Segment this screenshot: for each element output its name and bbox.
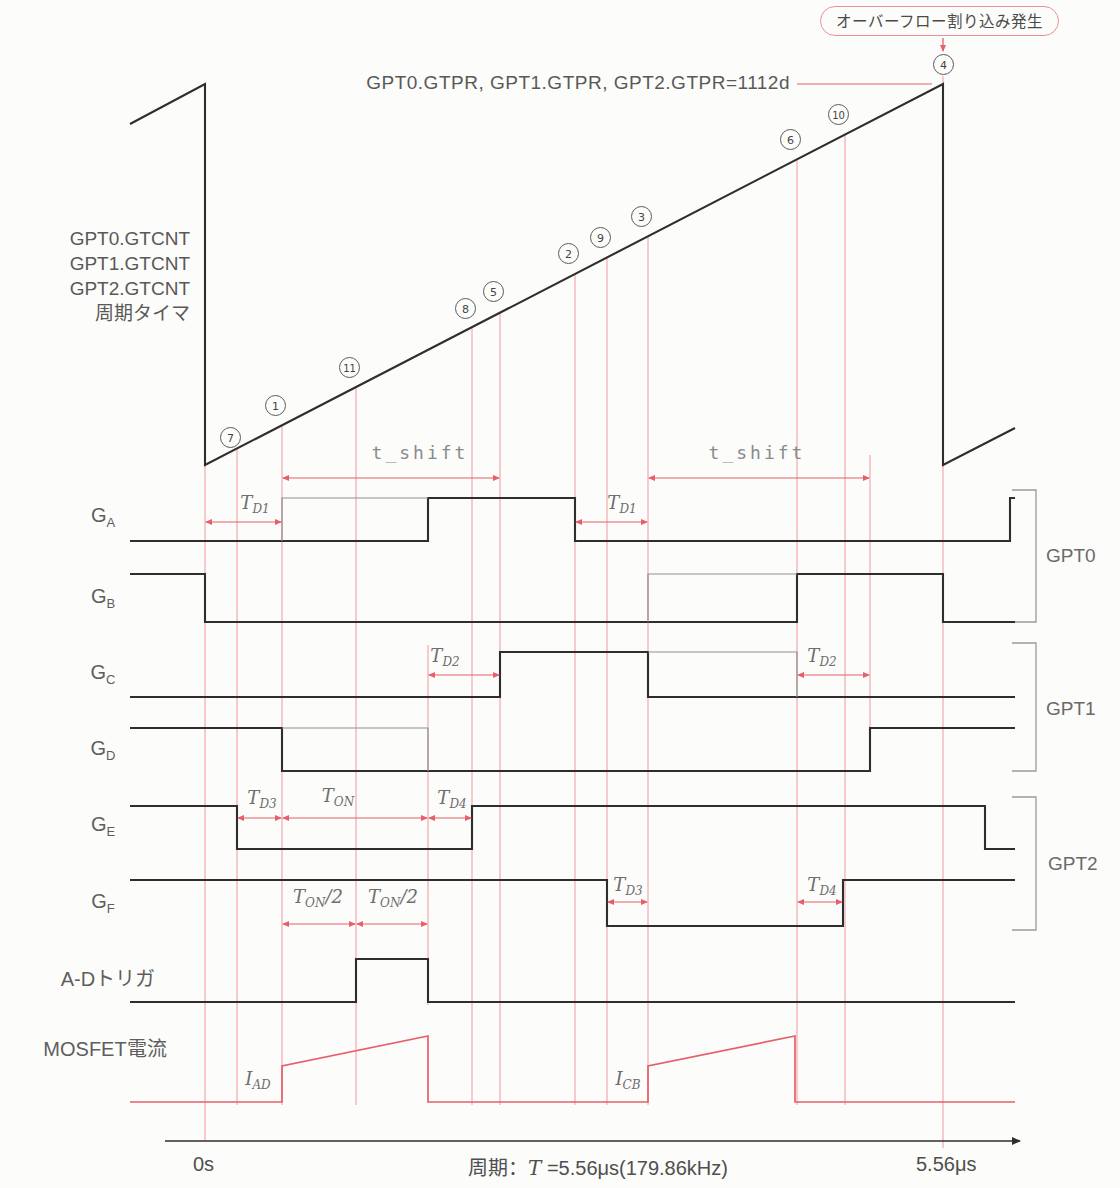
waveform-canvas	[0, 0, 1120, 1188]
signal-gf	[130, 880, 1015, 926]
row-label-gc: GC	[91, 661, 116, 687]
signal-ga-pre	[282, 498, 428, 541]
timing-diagram-page: オーバーフロー割り込み発生 GPT0.GTPR, GPT1.GTPR, GPT2…	[0, 0, 1120, 1188]
overflow-interrupt-callout: オーバーフロー割り込み発生	[820, 6, 1059, 36]
event-marker-8: 8	[455, 298, 476, 319]
label-td2-left: TD2	[430, 645, 459, 670]
label-ton2-b: TON/2	[368, 886, 418, 911]
period-timer-label: 周期タイマ	[0, 301, 190, 326]
label-td3-left: TD3	[247, 787, 276, 812]
signal-gd-pre	[282, 728, 428, 771]
axis-period-suffix: =5.56μs(179.86kHz)	[541, 1157, 728, 1179]
event-marker-10: 10	[828, 104, 849, 125]
event-marker-2: 2	[558, 243, 579, 264]
group-label-gpt2: GPT2	[1048, 853, 1098, 875]
event-marker-6: 6	[780, 129, 801, 150]
label-td4-right: TD4	[807, 874, 836, 899]
label-i-ad: IAD	[245, 1068, 270, 1093]
row-label-ge: GE	[91, 813, 115, 839]
axis-label-period: 周期：T =5.56μs(179.86kHz)	[468, 1152, 728, 1181]
event-marker-11: 11	[339, 357, 360, 378]
label-ton: TON	[322, 785, 354, 810]
signal-gd	[130, 728, 1015, 771]
gtcnt2-label: GPT2.GTCNT	[0, 276, 190, 301]
label-td2-right: TD2	[807, 645, 836, 670]
row-label-gd: GD	[91, 737, 116, 763]
signal-gc-pre	[648, 652, 797, 697]
bracket-gpt2	[1012, 797, 1036, 930]
axis-label-0s: 0s	[193, 1153, 214, 1176]
counter-ramp	[130, 84, 1015, 465]
label-td1-left: TD1	[240, 492, 269, 517]
row-label-gb: GB	[91, 585, 115, 611]
bracket-gpt1	[1012, 643, 1036, 771]
row-label-ga: GA	[91, 504, 115, 530]
label-td4-left: TD4	[437, 787, 466, 812]
group-label-gpt0: GPT0	[1046, 545, 1096, 567]
event-marker-3: 3	[631, 206, 652, 227]
mosfet-current-row-label: MOSFET電流	[43, 1033, 166, 1062]
label-i-cb: ICB	[615, 1068, 640, 1093]
label-ton2-a: TON/2	[293, 886, 343, 911]
row-label-gf: GF	[91, 890, 115, 916]
label-td3-right: TD3	[613, 874, 642, 899]
signal-gb-pre	[648, 574, 797, 622]
gtcnt1-label: GPT1.GTCNT	[0, 251, 190, 276]
event-marker-7: 7	[220, 427, 241, 448]
signal-ge	[130, 806, 1015, 849]
axis-label-5_56us: 5.56μs	[916, 1153, 976, 1176]
signal-ad-trigger	[130, 959, 1015, 1002]
ad-trigger-row-label: A-Dトリガ	[61, 963, 155, 992]
counter-labels-block: GPT0.GTCNT GPT1.GTCNT GPT2.GTCNT 周期タイマ	[0, 226, 190, 326]
bracket-gpt0	[1012, 490, 1036, 622]
label-t-shift-left: t_shift	[372, 442, 469, 463]
gtpr-register-label: GPT0.GTPR, GPT1.GTPR, GPT2.GTPR=1112d	[366, 72, 790, 94]
label-t-shift-right: t_shift	[709, 442, 806, 463]
event-marker-1: 1	[265, 395, 286, 416]
axis-period-T: T	[528, 1156, 541, 1180]
event-marker-4: 4	[933, 54, 954, 75]
axis-period-prefix: 周期：	[468, 1157, 528, 1179]
group-label-gpt1: GPT1	[1046, 698, 1096, 720]
signal-gb	[130, 574, 1015, 622]
gtcnt0-label: GPT0.GTCNT	[0, 226, 190, 251]
event-marker-9: 9	[590, 227, 611, 248]
label-td1-right: TD1	[607, 492, 636, 517]
signal-gc	[130, 652, 1015, 697]
event-marker-5: 5	[483, 281, 504, 302]
